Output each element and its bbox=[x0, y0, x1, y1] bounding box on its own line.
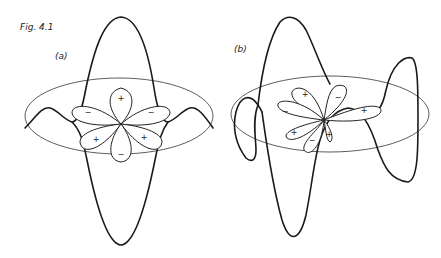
sign-plus: + bbox=[302, 90, 309, 99]
sign-plus: + bbox=[93, 135, 100, 144]
sign-plus: + bbox=[361, 106, 368, 115]
sign-minus: − bbox=[85, 108, 92, 117]
wave-curve-main bbox=[258, 17, 418, 236]
figure-canvas: + − − + + − + − − + + − + bbox=[0, 0, 441, 258]
sign-minus: − bbox=[118, 150, 125, 159]
wave-curve bbox=[234, 98, 258, 161]
sign-minus: − bbox=[309, 136, 316, 145]
sign-plus: + bbox=[141, 133, 148, 142]
sign-minus: − bbox=[148, 108, 155, 117]
sign-plus: + bbox=[291, 128, 298, 137]
sign-plus: + bbox=[326, 130, 333, 139]
sign-plus: + bbox=[118, 94, 125, 103]
panel-b: + − − + + − + bbox=[231, 17, 429, 236]
wave-curve-left bbox=[258, 105, 262, 112]
orbital-lobes bbox=[278, 85, 381, 152]
sign-minus: − bbox=[335, 93, 342, 102]
sign-minus: − bbox=[282, 107, 289, 116]
panel-a: + − − + + − bbox=[25, 17, 213, 245]
